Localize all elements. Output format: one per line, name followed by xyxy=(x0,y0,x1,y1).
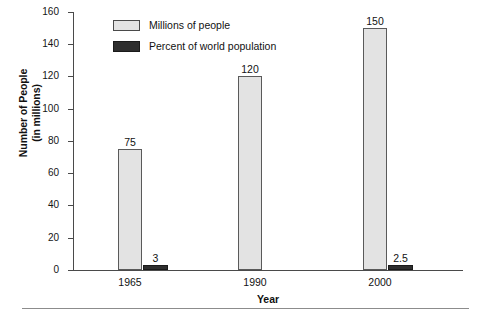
y-tick-label-40: 40 xyxy=(19,198,59,211)
y-tick-label-0: 0 xyxy=(19,263,59,276)
y-tick-label-160: 160 xyxy=(19,5,59,18)
legend-swatch-icon-percent xyxy=(113,41,140,52)
y-tick-80: 80 xyxy=(68,141,73,142)
y-tick-label-80: 80 xyxy=(19,134,59,147)
legend-item-percent-of-world-population[interactable]: Percent of world population xyxy=(113,38,343,55)
y-tick-label-20: 20 xyxy=(19,231,59,244)
bar-chart-figure: Number of People (in millions) 160 140 1… xyxy=(0,0,485,320)
footer-divider xyxy=(22,308,469,309)
y-tick-label-60: 60 xyxy=(19,166,59,179)
legend-swatch-icon-millions xyxy=(113,20,140,31)
bar-2000-percent-of-world-population[interactable]: 2.5 xyxy=(388,265,413,270)
bar-1965-millions-of-people[interactable]: 75 xyxy=(118,149,142,270)
bar-value-2000-millions: 150 xyxy=(366,15,384,28)
y-tick-label-140: 140 xyxy=(19,37,59,50)
y-axis-line xyxy=(73,12,74,271)
y-tick-label-100: 100 xyxy=(19,102,59,115)
y-tick-20: 20 xyxy=(68,238,73,239)
legend-item-millions-of-people[interactable]: Millions of people xyxy=(113,17,343,34)
x-tick-label-1965: 1965 xyxy=(100,276,160,289)
y-tick-label-120: 120 xyxy=(19,69,59,82)
bar-value-1965-millions: 75 xyxy=(124,136,136,149)
x-axis-title: Year xyxy=(73,293,463,306)
y-tick-100: 100 xyxy=(68,109,73,110)
y-tick-120: 120 xyxy=(68,76,73,77)
bar-1965-percent-of-world-population[interactable]: 3 xyxy=(143,265,168,270)
y-tick-0: 0 xyxy=(68,270,73,271)
bar-group-2000: 150 2.5 xyxy=(363,12,443,270)
y-tick-60: 60 xyxy=(68,173,73,174)
x-tick-label-1990: 1990 xyxy=(225,276,285,289)
x-tick-label-2000: 2000 xyxy=(350,276,410,289)
bar-value-1990-millions: 120 xyxy=(241,63,259,76)
bar-value-2000-percent: 2.5 xyxy=(393,252,408,265)
bar-value-1965-percent: 3 xyxy=(153,252,159,265)
x-axis-line xyxy=(73,270,463,271)
legend-label-millions: Millions of people xyxy=(149,19,230,32)
legend-label-percent: Percent of world population xyxy=(149,40,276,53)
y-tick-160: 160 xyxy=(68,12,73,13)
bar-1990-millions-of-people[interactable]: 120 xyxy=(238,76,262,270)
y-tick-40: 40 xyxy=(68,205,73,206)
bar-2000-millions-of-people[interactable]: 150 xyxy=(363,28,387,270)
chart-legend: Millions of people Percent of world popu… xyxy=(113,17,343,59)
y-tick-140: 140 xyxy=(68,44,73,45)
